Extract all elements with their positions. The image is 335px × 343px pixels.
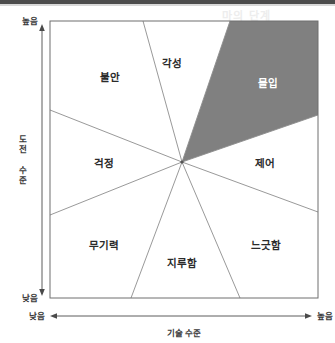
- flow-diagram-canvas: [0, 0, 335, 343]
- y-axis-title: 도전 수준: [18, 135, 27, 186]
- sector-label-flow: 몰입: [258, 78, 278, 89]
- sector-label-relaxation: 느긋함: [251, 240, 282, 251]
- divider-line-worry-anxiety: [50, 110, 182, 162]
- y-axis-arrow: [39, 24, 45, 296]
- sector-label-anxiety: 불안: [100, 72, 120, 83]
- divider-line-boredom-apathy: [131, 162, 182, 298]
- divider-line-apathy-worry: [50, 162, 182, 215]
- x-axis-high-label: 높음: [317, 312, 333, 321]
- x-axis-title: 기술 수준: [167, 329, 202, 338]
- y-axis-high-label: 높음: [22, 17, 38, 26]
- flow-sector-shape: [182, 21, 318, 162]
- x-axis-arrow: [50, 313, 312, 319]
- sector-label-worry: 걱정: [94, 158, 114, 169]
- center-point: [180, 160, 183, 163]
- divider-line-control-relaxation: [182, 162, 318, 212]
- sector-label-boredom: 지루함: [167, 258, 198, 269]
- sector-label-control: 제어: [255, 158, 275, 169]
- sector-label-arousal: 각성: [162, 58, 182, 69]
- divider-line-relaxation-boredom: [182, 162, 240, 298]
- x-axis-low-label: 낮음: [29, 312, 45, 321]
- y-axis-low-label: 낮음: [22, 294, 38, 303]
- divider-line-anxiety-arousal: [143, 21, 182, 162]
- flow-diagram-figure: 마의 단계 불안: [0, 0, 335, 343]
- sector-label-apathy: 무기력: [89, 240, 120, 251]
